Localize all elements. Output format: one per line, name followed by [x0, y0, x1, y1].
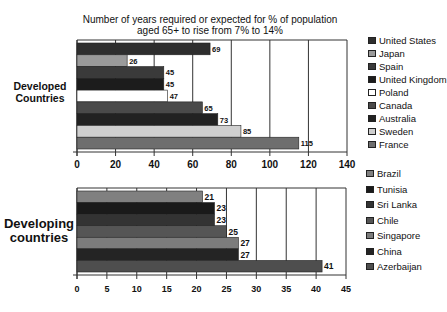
- legend-item: Azerbaijan: [366, 259, 422, 275]
- x-tick-label: 0: [74, 284, 79, 294]
- x-tick-label: 30: [251, 284, 261, 294]
- bar-france: [77, 137, 299, 149]
- legend-item: Sweden: [368, 125, 447, 138]
- legend-swatch: [368, 63, 376, 70]
- bar-sri-lanka: [77, 214, 214, 226]
- legend-swatch: [366, 217, 374, 224]
- x-tick-label: 10: [132, 284, 142, 294]
- data-label: 47: [170, 92, 178, 101]
- bar-australia: [77, 114, 218, 126]
- bar-tunisia: [77, 203, 214, 215]
- legend-swatch: [366, 248, 374, 255]
- x-tick-label: 40: [149, 159, 161, 170]
- legend-swatch: [368, 141, 376, 148]
- legend-label: Sweden: [379, 126, 413, 137]
- data-label: 27: [240, 250, 250, 260]
- legend-swatch: [368, 115, 376, 122]
- bar-spain: [77, 67, 164, 79]
- data-label: 73: [220, 116, 228, 125]
- legend-item: France: [368, 138, 447, 151]
- bar-united-kingdom: [77, 78, 164, 90]
- legend-item: United Kingdom: [368, 73, 447, 86]
- legend-item: Canada: [368, 99, 447, 112]
- data-label: 85: [243, 127, 251, 136]
- x-tick-label: 80: [226, 159, 238, 170]
- bar-canada: [77, 102, 202, 114]
- bar-chile: [77, 226, 226, 238]
- legend-label: Sri Lanka: [377, 199, 417, 210]
- legend-item: Japan: [368, 47, 447, 60]
- legend-label: United States: [379, 35, 436, 46]
- legend-item: Chile: [366, 213, 422, 229]
- data-label: 23: [216, 203, 226, 213]
- x-tick-label: 5: [104, 284, 109, 294]
- legend-label: Singapore: [377, 230, 420, 241]
- legend-label: Spain: [379, 61, 403, 72]
- bar-brazil: [77, 191, 203, 203]
- legend-item: Singapore: [366, 228, 422, 244]
- legend-item: Tunisia: [366, 182, 422, 198]
- x-tick-label: 140: [339, 159, 356, 170]
- bar-azerbaijan: [77, 260, 322, 272]
- legend-item: China: [366, 244, 422, 260]
- data-label: 26: [129, 57, 137, 66]
- legend-label: Tunisia: [377, 184, 407, 195]
- legend-swatch: [366, 201, 374, 208]
- data-label: 25: [228, 227, 238, 237]
- legend-item: Sri Lanka: [366, 197, 422, 213]
- legend-swatch: [366, 186, 374, 193]
- bar-singapore: [77, 237, 238, 249]
- legend-swatch: [366, 170, 374, 177]
- legend-label: Canada: [379, 100, 412, 111]
- data-label: 27: [240, 238, 250, 248]
- x-tick-label: 0: [74, 159, 80, 170]
- legend-label: Japan: [379, 48, 405, 59]
- legend-swatch: [368, 76, 376, 83]
- legend-label: Azerbaijan: [377, 261, 422, 272]
- bar-poland: [77, 90, 168, 102]
- legend-label: France: [379, 139, 409, 150]
- legend-developed: United StatesJapanSpainUnited KingdomPol…: [368, 34, 447, 151]
- x-tick-label: 20: [110, 159, 122, 170]
- x-tick-label: 120: [300, 159, 317, 170]
- bar-japan: [77, 55, 127, 67]
- legend-item: Spain: [368, 60, 447, 73]
- data-label: 69: [212, 45, 220, 54]
- legend-item: United States: [368, 34, 447, 47]
- x-tick-label: 100: [262, 159, 279, 170]
- legend-swatch: [366, 263, 374, 270]
- data-label: 41: [324, 261, 334, 271]
- data-label: 65: [204, 104, 212, 113]
- bar-united-states: [77, 43, 210, 55]
- legend-label: Australia: [379, 113, 416, 124]
- legend-swatch: [368, 37, 376, 44]
- legend-label: Chile: [377, 215, 399, 226]
- bar-china: [77, 249, 238, 261]
- legend-developing: BrazilTunisiaSri LankaChileSingaporeChin…: [366, 166, 422, 275]
- data-label: 45: [166, 80, 174, 89]
- legend-label: Brazil: [377, 168, 401, 179]
- x-tick-label: 15: [162, 284, 172, 294]
- data-label: 45: [166, 68, 174, 77]
- x-tick-label: 35: [281, 284, 291, 294]
- legend-swatch: [368, 128, 376, 135]
- legend-item: Brazil: [366, 166, 422, 182]
- x-tick-label: 45: [341, 284, 351, 294]
- bar-sweden: [77, 125, 241, 137]
- data-label: 115: [301, 139, 313, 148]
- x-tick-label: 25: [221, 284, 231, 294]
- legend-swatch: [368, 102, 376, 109]
- data-label: 21: [205, 192, 215, 202]
- x-tick-label: 40: [311, 284, 321, 294]
- x-tick-label: 20: [192, 284, 202, 294]
- legend-item: Australia: [368, 112, 447, 125]
- legend-item: Poland: [368, 86, 447, 99]
- x-tick-label: 60: [187, 159, 199, 170]
- legend-swatch: [368, 89, 376, 96]
- legend-swatch: [366, 232, 374, 239]
- legend-swatch: [368, 50, 376, 57]
- data-label: 23: [216, 215, 226, 225]
- legend-label: United Kingdom: [379, 74, 447, 85]
- legend-label: Poland: [379, 87, 409, 98]
- legend-label: China: [377, 246, 402, 257]
